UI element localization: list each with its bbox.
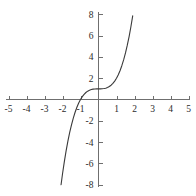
y-tick-label: -2 [86, 116, 94, 126]
y-tick-label: -4 [86, 138, 94, 148]
y-tick-label: -8 [86, 180, 94, 190]
x-tick-label: -2 [59, 104, 67, 114]
plot-canvas: -5-4-3-2-112345 -8-6-4-22468 [0, 0, 196, 196]
x-tick-label: 5 [186, 104, 191, 114]
x-tick-label: -5 [5, 104, 13, 114]
y-tick-label: 4 [89, 52, 94, 62]
x-tick-label: 4 [168, 104, 173, 114]
y-tick-label: -6 [86, 159, 94, 169]
x-tick-label: 2 [132, 104, 137, 114]
y-tick-label: 8 [89, 10, 94, 20]
x-tick-label: 1 [114, 104, 119, 114]
y-tick-label: 6 [89, 31, 94, 41]
y-tick-label: 2 [89, 74, 94, 84]
x-tick-label: -3 [41, 104, 49, 114]
function-plot-figure: -5-4-3-2-112345 -8-6-4-22468 [0, 0, 196, 196]
x-tick-label: -4 [23, 104, 31, 114]
x-tick-label: 3 [150, 104, 155, 114]
